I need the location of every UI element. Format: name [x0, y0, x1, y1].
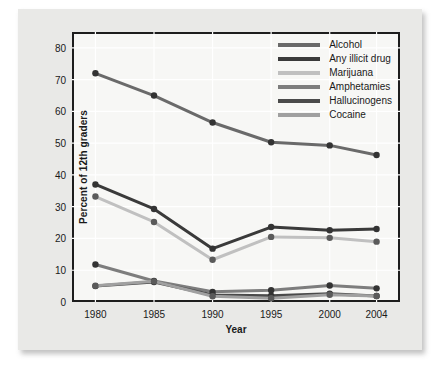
legend-swatch [278, 57, 320, 61]
y-axis-tick-label: 0 [60, 297, 66, 308]
data-point-marker [327, 235, 333, 241]
x-axis-title: Year [225, 324, 246, 335]
data-point-marker [327, 291, 333, 297]
data-point-marker [268, 139, 274, 145]
legend-label: Cocaine [329, 109, 366, 120]
data-point-marker [327, 227, 333, 233]
data-point-marker [209, 257, 215, 263]
y-axis-tick-label: 80 [55, 42, 66, 53]
data-point-marker [151, 219, 157, 225]
data-point-marker [373, 238, 379, 244]
series-marijuana [92, 193, 380, 263]
data-point-marker [92, 181, 98, 187]
data-point-marker [92, 283, 98, 289]
data-point-marker [373, 226, 379, 232]
x-axis-tick-label: 2004 [365, 309, 387, 320]
series-line [95, 197, 376, 260]
data-point-marker [373, 152, 379, 158]
x-axis-tick-label: 2000 [319, 309, 341, 320]
series-line [95, 265, 376, 292]
x-axis-tick-label: 1985 [143, 309, 165, 320]
legend-swatch [278, 71, 320, 75]
y-axis-tick-label: 70 [55, 74, 66, 85]
data-point-marker [373, 285, 379, 291]
y-axis-tick-label: 40 [55, 169, 66, 180]
x-axis-tick-label: 1980 [84, 309, 106, 320]
legend-item-any-illicit-drug[interactable]: Any illicit drug [278, 52, 392, 65]
data-point-marker [151, 92, 157, 98]
legend-item-hallucinogens[interactable]: Hallucinogens [278, 94, 392, 107]
chart-legend: AlcoholAny illicit drugMarijuanaAmphetam… [278, 38, 392, 121]
data-point-marker [209, 245, 215, 251]
legend-label: Hallucinogens [329, 95, 392, 106]
figure-card: 01020304050607080 1980198519901995200020… [18, 9, 422, 350]
x-axis-tick-label: 1995 [260, 309, 282, 320]
y-axis-tick-label: 50 [55, 138, 66, 149]
data-point-marker [92, 261, 98, 267]
data-point-marker [151, 278, 157, 284]
legend-label: Alcohol [329, 39, 362, 50]
y-axis-tick-label: 10 [55, 265, 66, 276]
data-point-marker [209, 119, 215, 125]
data-point-marker [373, 293, 379, 299]
data-point-marker [151, 206, 157, 212]
legend-label: Any illicit drug [329, 53, 391, 64]
x-axis-tick-label: 1990 [201, 309, 223, 320]
data-point-marker [209, 293, 215, 299]
y-axis-title: Percent of 12th graders [78, 110, 89, 224]
legend-swatch [278, 99, 320, 103]
plot-wrap: 01020304050607080 1980198519901995200020… [72, 32, 400, 302]
y-axis-tick-label: 20 [55, 233, 66, 244]
legend-swatch [278, 43, 320, 47]
legend-item-marijuana[interactable]: Marijuana [278, 66, 392, 79]
y-axis-tick-label: 60 [55, 106, 66, 117]
data-point-marker [92, 193, 98, 199]
legend-label: Amphetamies [329, 81, 390, 92]
data-point-marker [268, 224, 274, 230]
series-any-illicit-drug [92, 181, 380, 252]
legend-item-alcohol[interactable]: Alcohol [278, 38, 392, 51]
series-amphetamies [92, 261, 380, 295]
legend-swatch [278, 113, 320, 117]
data-point-marker [268, 295, 274, 301]
data-point-marker [92, 70, 98, 76]
legend-item-amphetamies[interactable]: Amphetamies [278, 80, 392, 93]
data-point-marker [327, 142, 333, 148]
legend-swatch [278, 85, 320, 89]
y-axis-tick-label: 30 [55, 201, 66, 212]
legend-item-cocaine[interactable]: Cocaine [278, 108, 392, 121]
legend-label: Marijuana [329, 67, 373, 78]
data-point-marker [327, 282, 333, 288]
data-point-marker [268, 234, 274, 240]
